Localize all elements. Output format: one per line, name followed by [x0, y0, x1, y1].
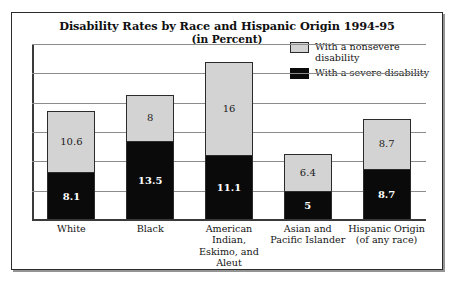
bar-value-label-severe: 5	[304, 201, 311, 211]
bar-segment-nonsevere: 8	[126, 95, 174, 142]
category-label-line: Black	[111, 223, 190, 234]
bar-group: 6.45	[284, 154, 332, 221]
bar-value-label-nonsevere: 16	[223, 104, 236, 114]
plot-area: 10.68.1813.51611.16.458.78.7	[32, 45, 426, 221]
bar-segment-severe: 13.5	[126, 142, 174, 221]
bars-container: 10.68.1813.51611.16.458.78.7	[32, 45, 426, 221]
bar-value-label-severe: 11.1	[217, 183, 241, 193]
x-axis	[32, 219, 426, 221]
bar-group: 8.78.7	[363, 119, 411, 221]
category-label-line: Eskimo, and	[190, 246, 269, 257]
bar-value-label-nonsevere: 8	[147, 113, 153, 123]
category-label: White	[32, 223, 111, 234]
bar-segment-nonsevere: 16	[205, 62, 253, 156]
bar-segment-severe: 8.1	[47, 173, 95, 221]
bar-group: 813.5	[126, 95, 174, 221]
bar-value-label-severe: 8.7	[378, 190, 395, 200]
category-label-line: Pacific Islander	[268, 234, 347, 245]
category-label-line: Hispanic Origin	[347, 223, 426, 234]
category-label-line: American	[190, 223, 269, 234]
category-label-line: White	[32, 223, 111, 234]
bar-segment-nonsevere: 10.6	[47, 111, 95, 173]
category-label: Black	[111, 223, 190, 234]
category-label: Hispanic Origin(of any race)	[347, 223, 426, 246]
category-label: Asian andPacific Islander	[268, 223, 347, 246]
bar-segment-severe: 5	[284, 192, 332, 221]
bar-segment-severe: 11.1	[205, 156, 253, 221]
chart-card: Disability Rates by Race and Hispanic Or…	[11, 12, 443, 270]
category-label-line: Asian and	[268, 223, 347, 234]
bar-value-label-nonsevere: 10.6	[60, 137, 82, 147]
bar-value-label-severe: 13.5	[138, 176, 162, 186]
category-label-line: Aleut	[190, 257, 269, 268]
category-label-line: Indian,	[190, 234, 269, 245]
bar-segment-nonsevere: 8.7	[363, 119, 411, 170]
bar-group: 10.68.1	[47, 111, 95, 221]
category-label: AmericanIndian,Eskimo, andAleut	[190, 223, 269, 269]
bar-value-label-nonsevere: 6.4	[300, 168, 316, 178]
bar-value-label-nonsevere: 8.7	[379, 139, 395, 149]
category-labels: WhiteBlackAmericanIndian,Eskimo, andAleu…	[32, 223, 426, 271]
bar-value-label-severe: 8.1	[63, 192, 80, 202]
category-label-line: (of any race)	[347, 234, 426, 245]
bar-group: 1611.1	[205, 62, 253, 221]
bar-segment-severe: 8.7	[363, 170, 411, 221]
chart-title: Disability Rates by Race and Hispanic Or…	[12, 19, 442, 33]
bar-segment-nonsevere: 6.4	[284, 154, 332, 192]
